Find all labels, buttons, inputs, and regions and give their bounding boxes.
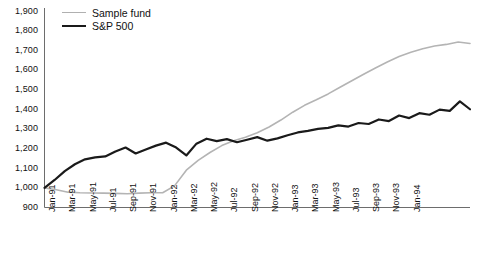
legend-swatch-sample-fund-icon bbox=[62, 12, 86, 13]
x-axis-tick-label: Jul-91 bbox=[109, 187, 118, 212]
x-axis-tick-label: Sep-93 bbox=[372, 182, 381, 211]
x-axis-tick-label: Mar-91 bbox=[68, 183, 77, 212]
y-axis-tick-label: 1,700 bbox=[2, 46, 38, 55]
x-axis-tick-label: May-92 bbox=[210, 181, 219, 211]
y-axis-tick-label: 1,500 bbox=[2, 85, 38, 94]
x-axis-tick-label: Mar-93 bbox=[311, 183, 320, 212]
x-axis-tick-label: Nov-93 bbox=[392, 182, 401, 211]
legend-label-sample-fund: Sample fund bbox=[92, 7, 151, 19]
y-axis-tick-label: 1,300 bbox=[2, 124, 38, 133]
y-axis-tick-label: 1,100 bbox=[2, 164, 38, 173]
x-axis-tick-label: Jan-92 bbox=[170, 184, 179, 212]
x-axis-tick-label: Jan-94 bbox=[413, 184, 422, 212]
y-axis-tick-label: 1,800 bbox=[2, 26, 38, 35]
x-axis-tick-label: Jan-91 bbox=[48, 184, 57, 212]
x-axis-tick-label: Sep-91 bbox=[129, 182, 138, 211]
series-line-sp500 bbox=[45, 101, 471, 187]
x-axis-tick-label: May-91 bbox=[89, 181, 98, 211]
legend-swatch-sp500-icon bbox=[62, 25, 86, 27]
x-axis-tick-label: Mar-92 bbox=[190, 183, 199, 212]
legend-item-sp500: S&P 500 bbox=[62, 19, 151, 32]
x-axis-tick-label: Jul-93 bbox=[352, 187, 361, 212]
y-axis-tick-label: 1,600 bbox=[2, 65, 38, 74]
x-axis-tick-label: Jul-92 bbox=[230, 187, 239, 212]
y-axis-tick-label: 1,400 bbox=[2, 105, 38, 114]
chart-container: 1,9001,8001,7001,6001,5001,4001,3001,200… bbox=[0, 0, 477, 253]
x-axis-tick-label: Nov-92 bbox=[271, 182, 280, 211]
x-axis-tick-label: Jan-93 bbox=[291, 184, 300, 212]
x-axis-tick-label: Nov-91 bbox=[149, 182, 158, 211]
y-axis-tick-label: 1,000 bbox=[2, 183, 38, 192]
legend-item-sample-fund: Sample fund bbox=[62, 6, 151, 19]
x-axis-tick-label: Sep-92 bbox=[251, 182, 260, 211]
y-axis-tick-label: 1,900 bbox=[2, 7, 38, 16]
x-axis-tick-label: May-93 bbox=[332, 181, 341, 211]
chart-plot-area bbox=[0, 0, 477, 253]
y-axis-tick-label: 1,200 bbox=[2, 144, 38, 153]
chart-legend: Sample fund S&P 500 bbox=[62, 6, 151, 32]
y-axis-tick-label: 900 bbox=[2, 203, 38, 212]
legend-label-sp500: S&P 500 bbox=[92, 20, 133, 32]
